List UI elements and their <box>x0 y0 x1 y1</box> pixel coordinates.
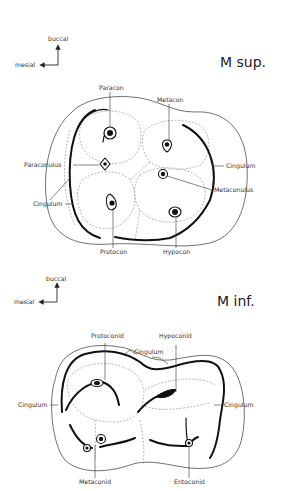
label-cingulum-lower-left: Cingulum <box>18 401 47 409</box>
mesial-label-lower: mesial <box>14 298 35 305</box>
label-protoconid: Protoconid <box>91 332 124 339</box>
upper-title: M sup. <box>220 54 266 70</box>
label-cingulum-lower-right: Cingulum <box>224 401 253 409</box>
buccal-label: buccal <box>48 35 68 42</box>
label-paraconulus: Paraconulus <box>24 161 61 168</box>
label-cingulum-upper-left: Cingulum <box>33 200 62 208</box>
molar-diagram: buccal mesial M sup. <box>0 0 282 491</box>
label-paracon: Paracon <box>99 84 124 91</box>
buccal-label-lower: buccal <box>46 275 66 282</box>
label-cingulum-lower-top: Cingulum <box>134 348 163 356</box>
lower-molar: Protoconid Hypoconid Cingulum Cingulum C… <box>18 332 253 485</box>
label-cingulum-upper-right: Cingulum <box>226 162 255 170</box>
label-hypoconid: Hypoconid <box>159 332 192 340</box>
label-hypocon: Hypocon <box>163 248 190 256</box>
label-metaconid: Metaconid <box>79 478 111 485</box>
lower-title: M inf. <box>217 293 255 309</box>
mesial-label: mesial <box>15 61 36 68</box>
lower-compass: buccal mesial <box>14 275 66 305</box>
upper-molar: Paracon Metacon Paraconulus Cingulum Met… <box>24 84 255 256</box>
label-entoconid: Entoconid <box>174 478 205 485</box>
label-metaconulus: Metaconulus <box>214 186 253 193</box>
label-metacon: Metacon <box>157 96 184 103</box>
upper-compass: buccal mesial <box>15 35 68 68</box>
label-protocon: Protocon <box>100 248 127 255</box>
